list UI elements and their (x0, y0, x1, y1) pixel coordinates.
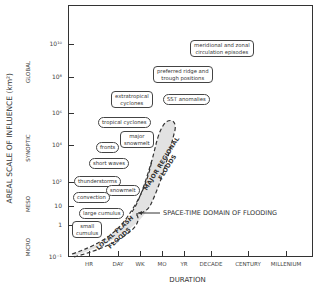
box-sst-anomalies: SST anomalies (163, 94, 210, 105)
box-short-waves: short waves (89, 158, 129, 169)
box-tropical-cyclones: tropical cyclones (98, 117, 151, 128)
box-ridge-trough: preferred ridge and trough positions (153, 66, 213, 83)
box-large-cumulus: large cumulus (79, 208, 124, 219)
box-fronts: fronts (96, 142, 119, 153)
box-snowmelt: snowmelt (106, 185, 140, 196)
box-major-snowmelt: major snowmelt (120, 131, 154, 148)
box-meridional-zonal: meridional and zonal circulation episode… (190, 40, 254, 57)
flood-domain-shapes (0, 0, 320, 291)
box-extratropical-cyclones: extratropical cyclones (111, 91, 153, 108)
space-time-domain-label: SPACE-TIME DOMAIN OF FLOODING (163, 209, 277, 217)
box-convection: convection (73, 192, 110, 203)
flood-scale-diagram: AREAL SCALE OF INFLUENCE (km²) GLOBAL SY… (0, 0, 320, 291)
box-small-cumulus: small cumulus (72, 221, 102, 238)
